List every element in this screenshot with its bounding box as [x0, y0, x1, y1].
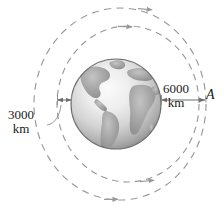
label-inner-distance: 3000 km — [8, 108, 34, 135]
label-inner-distance-unit: km — [8, 122, 34, 136]
diagram-canvas — [0, 0, 224, 205]
label-outer-distance-value: 6000 — [163, 82, 189, 96]
dimension-3000km — [47, 95, 72, 125]
label-outer-distance-unit: km — [163, 96, 189, 110]
earth-globe — [71, 59, 161, 149]
inner-orbit-arrow-bottom — [140, 180, 154, 181]
dimension-3000km-leader — [47, 105, 61, 125]
inner-orbit-arrow-top — [118, 26, 132, 27]
orbit-diagram-figure: 3000 km 6000 km A — [0, 0, 224, 205]
outer-orbit-arrow-top — [138, 9, 152, 10]
label-outer-distance: 6000 km — [163, 82, 189, 109]
label-point-a: A — [206, 88, 215, 103]
label-inner-distance-value: 3000 — [8, 108, 34, 122]
